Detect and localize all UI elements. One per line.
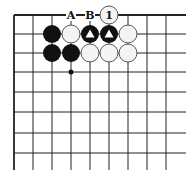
board-markers [69,70,74,75]
black-stone [43,25,61,43]
board-grid [14,15,186,170]
black-stone [100,25,118,43]
black-stone [43,44,61,62]
go-board-diagram: AB 1 [0,0,194,188]
white-stone [81,44,99,62]
black-stone [81,25,99,43]
move-number: 1 [105,9,113,22]
point-label-b: B [85,9,94,22]
white-stone [62,25,80,43]
white-stone [119,25,137,43]
dot-marker [69,70,74,75]
point-label-a: A [66,9,76,22]
white-stone [119,44,137,62]
black-stone [62,44,80,62]
white-stone [100,44,118,62]
white-stone: 1 [100,6,118,24]
